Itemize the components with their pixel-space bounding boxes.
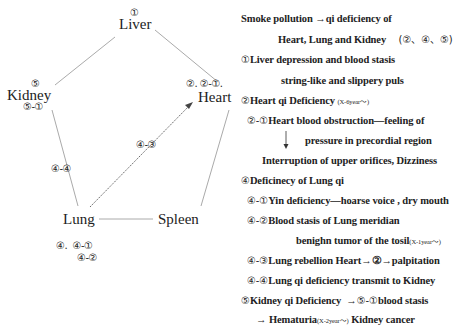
note-line16-text-a: → Hematuria	[256, 314, 317, 325]
note-line14: ④-④Lung qi deficiency transmit to Kidney	[247, 276, 435, 287]
note-line11: ④-②Blood stasis of Lung meridian	[247, 216, 400, 227]
note-line3-text: Liver depression and blood stasis	[250, 54, 395, 65]
note-line10: ④-①Yin deficiency—hoarse voice , dry mou…	[247, 196, 449, 207]
lung-mark-line2: ④-②	[77, 253, 97, 263]
note-line15: ⑤Kidney qi Deficiency →⑤-①blood stasis	[241, 296, 428, 307]
note-line10-text: Yin deficiency—hoarse voice , dry mouth	[268, 195, 449, 206]
note-line13: ④-③Lung rebellion Heart→②→palpitation	[247, 256, 440, 267]
note-line11-text: Blood stasis of Lung meridian	[268, 215, 399, 226]
lung-label: Lung	[63, 212, 95, 227]
liver-heart-line	[155, 30, 218, 82]
note-line15-mark: ⑤	[241, 295, 250, 306]
lung-mark-line1: ④. ④-①	[56, 241, 93, 251]
note-line6: ②-①Heart blood obstruction—feeling of	[247, 116, 424, 127]
note-line14-mark: ④-④	[247, 275, 268, 286]
note-line3: ①Liver depression and blood stasis	[241, 55, 395, 66]
note-line1: Smoke pollution →qi deficiency of	[241, 14, 392, 25]
lung-heart-edge-label: ④-③	[136, 140, 156, 150]
heart-mark: ②. ②-①.	[186, 79, 223, 89]
note-line2: Heart, Lung and Kidney (②、④、⑤)	[278, 35, 453, 46]
note-line13-text: Lung rebellion Heart→②→palpitation	[268, 255, 440, 266]
spleen-label: Spleen	[158, 212, 199, 227]
kidney-mark-bottom: ⑤-①	[23, 102, 43, 112]
note-line5-text: Heart qi Deficiency	[250, 95, 335, 106]
note-line11-mark: ④-②	[247, 215, 268, 226]
note-line13-mark: ④-③	[247, 255, 268, 266]
note-line9: ④Deficinecy of Lung qi	[241, 176, 344, 187]
note-line3-mark: ①	[241, 54, 250, 65]
liver-kidney-line	[55, 37, 115, 85]
note-line12-text: benighn tumor of the tosil	[296, 235, 409, 246]
note-line5: ②Heart qi Deficiency (X-6year～)	[241, 96, 369, 107]
note-line5-mark: ②	[241, 95, 250, 106]
down-arrow-icon	[284, 144, 289, 149]
note-line15-mark2: ⑤-①	[357, 295, 378, 306]
note-line6-mark: ②-①	[247, 115, 268, 126]
note-line4: string-like and slippery puls	[281, 76, 404, 87]
liver-label: Liver	[119, 17, 151, 32]
note-line8: Interruption of upper orifices, Dizzines…	[262, 156, 437, 167]
note-line16-text-b: Kidney cancer	[349, 314, 415, 325]
note-line12-duration: (X-1year～)	[409, 238, 441, 245]
kidney-lung-line	[52, 110, 78, 206]
note-line2-text: Heart, Lung and Kidney	[278, 34, 386, 45]
heart-spleen-line	[201, 110, 229, 206]
note-line6-text: Heart blood obstruction—feeling of	[268, 115, 424, 126]
heart-label: Heart	[198, 90, 231, 105]
note-line14-text: Lung qi deficiency transmit to Kidney	[268, 275, 435, 286]
lung-kidney-edge-label: ④-④	[51, 164, 71, 174]
note-line10-mark: ④-①	[247, 195, 268, 206]
note-line15-text-b: blood stasis	[378, 295, 428, 306]
note-line16: → Hematuria(X-2year～) Kidney cancer	[256, 315, 415, 326]
note-line9-text: Deficinecy of Lung qi	[250, 175, 344, 186]
lung-heart-arrow	[90, 105, 190, 207]
note-line7: pressure in precordial region	[305, 136, 432, 147]
note-line16-duration: (X-2year～)	[317, 317, 349, 324]
note-line12: benighn tumor of the tosil(X-1year～)	[296, 236, 441, 247]
five-organ-diagram: ① Liver ⑤ Kidney ⑤-① ②. ②-①. Heart ④-③ ④…	[0, 0, 462, 329]
note-line15-text-a: Kidney qi Deficiency →	[250, 295, 357, 306]
note-line2-marks: (②、④、⑤)	[399, 34, 453, 45]
arrowhead-icon	[185, 102, 193, 109]
note-line9-mark: ④	[241, 175, 250, 186]
note-line5-duration: (X-6year～)	[337, 98, 369, 105]
